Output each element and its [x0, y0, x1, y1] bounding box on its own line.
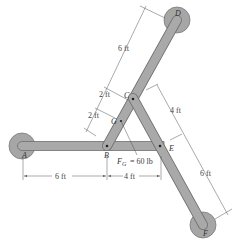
frame-diagram: A B C D E F G F G = 60 lb 6 ft 4 ft 6 ft… [0, 0, 235, 242]
label-f: F [202, 229, 208, 238]
dim-label-cg: 2 ft [99, 90, 111, 99]
label-c: C [124, 91, 130, 100]
member-bd [107, 20, 177, 146]
dim-label-gb: 2 ft [88, 111, 100, 120]
pin-e [159, 145, 162, 148]
label-a: A [21, 151, 27, 160]
label-d: D [174, 9, 181, 18]
svg-text:= 60 lb: = 60 lb [130, 157, 153, 166]
load-label: F G = 60 lb [116, 157, 153, 167]
pin-b [106, 145, 109, 148]
label-b: B [104, 151, 109, 160]
dim-label-ab: 6 ft [55, 172, 67, 181]
label-g: G [111, 117, 117, 126]
dim-label-cd: 6 ft [118, 44, 130, 53]
dim-label-ef: 6 ft [200, 169, 212, 178]
dim-label-ce: 4 ft [170, 106, 182, 115]
dim-label-be: 4 ft [124, 172, 136, 181]
member-ae [18, 142, 165, 151]
svg-text:G: G [122, 161, 127, 167]
label-e: E [168, 144, 174, 153]
pin-c [132, 98, 135, 101]
